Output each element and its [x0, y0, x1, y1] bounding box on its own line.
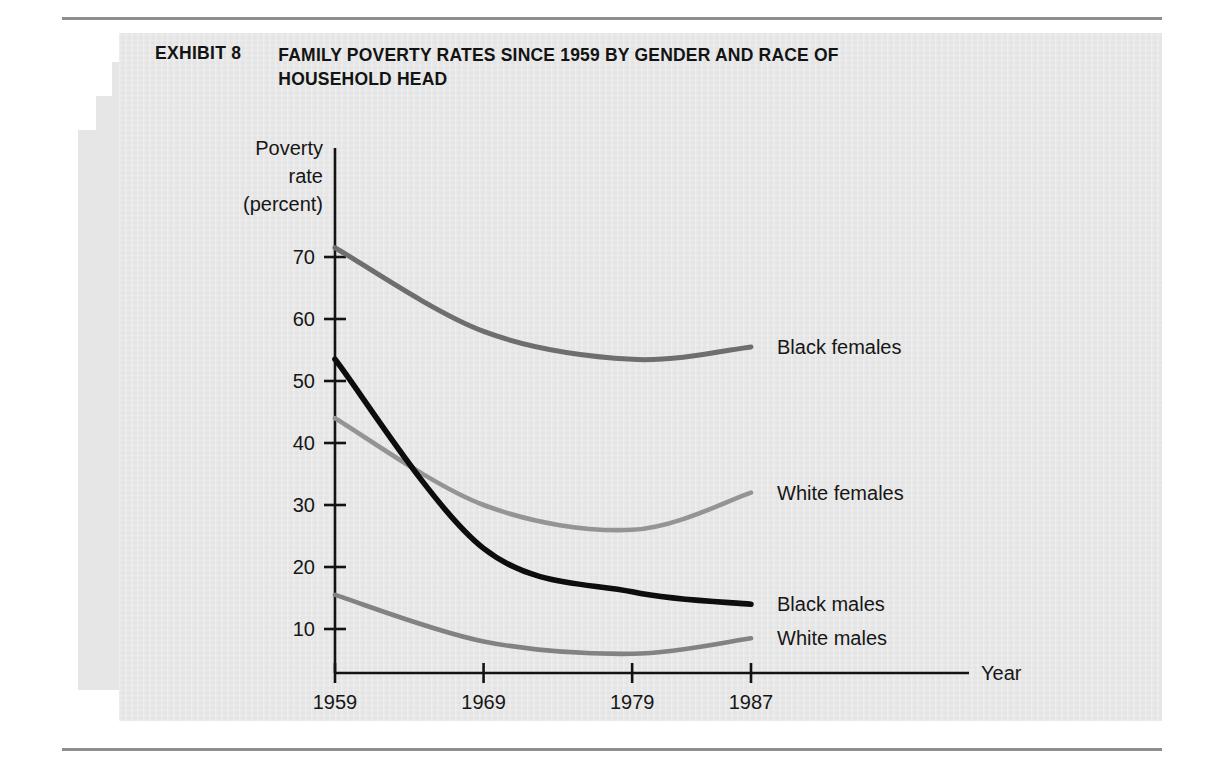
series-label-black-males: Black males: [777, 593, 885, 615]
y-tick-label: 30: [293, 494, 315, 516]
page-rule-bottom: [62, 748, 1162, 751]
exhibit-number-label: EXHIBIT 8: [155, 43, 241, 64]
x-tick-label: 1979: [610, 691, 655, 713]
y-tick-label: 70: [293, 246, 315, 268]
y-tick-label: 40: [293, 432, 315, 454]
page-rule-top: [62, 17, 1162, 20]
poverty-rate-line-chart: Poverty rate (percent) Year 102030405060…: [119, 33, 1162, 721]
series-label-white-males: White males: [777, 627, 887, 649]
y-axis-title-line-1: Poverty: [255, 137, 323, 159]
exhibit-title: FAMILY POVERTY RATES SINCE 1959 BY GENDE…: [278, 43, 918, 91]
series-line-white-females: [335, 418, 751, 530]
chart-series-group: [335, 248, 751, 654]
chart-series-labels: Black femalesWhite femalesBlack malesWhi…: [777, 336, 904, 649]
x-tick-label: 1987: [729, 691, 774, 713]
x-axis-title: Year: [981, 662, 1022, 684]
series-label-black-females: Black females: [777, 336, 902, 358]
series-line-white-males: [335, 595, 751, 654]
exhibit-title-block: EXHIBIT 8 FAMILY POVERTY RATES SINCE 195…: [155, 43, 1115, 91]
exhibit-panel: EXHIBIT 8 FAMILY POVERTY RATES SINCE 195…: [119, 33, 1162, 721]
y-axis-title-line-3: (percent): [243, 193, 323, 215]
x-axis-ticks: 1959196919791987: [313, 663, 774, 713]
y-tick-label: 20: [293, 556, 315, 578]
x-tick-label: 1959: [313, 691, 358, 713]
y-axis-title-line-2: rate: [289, 165, 323, 187]
series-line-black-females: [335, 248, 751, 360]
y-axis-ticks: 10203040506070: [293, 246, 346, 640]
series-label-white-females: White females: [777, 482, 904, 504]
y-tick-label: 10: [293, 618, 315, 640]
y-tick-label: 50: [293, 370, 315, 392]
y-tick-label: 60: [293, 308, 315, 330]
series-line-black-males: [335, 359, 751, 604]
x-tick-label: 1969: [461, 691, 506, 713]
chart-svg: Poverty rate (percent) Year 102030405060…: [119, 33, 1162, 721]
